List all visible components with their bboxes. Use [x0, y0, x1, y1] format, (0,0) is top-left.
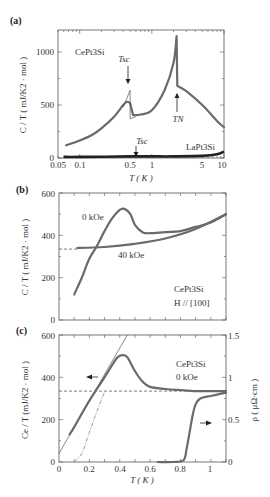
panel-c-ytick: 0	[51, 457, 56, 467]
panel-a-xtick: 10	[218, 160, 228, 170]
panel-b-ylabel: C / T ( mJ/K2 · mol )	[20, 219, 30, 295]
panel-b-field-dir: H // [100]	[174, 298, 210, 308]
series-label-0koe: 0 kOe	[82, 212, 104, 222]
panel-c: (c) 0 200 400 600 0 0.5 1 1.5 0 0.2 0.4 …	[16, 325, 259, 485]
panel-a-xtick: 0.5	[124, 160, 136, 170]
panel-b-ytick: 0	[51, 315, 56, 325]
figure: (a) 0 500 1000 0.05 0.1 0.5 1 5 10 T ( K…	[0, 0, 270, 497]
panel-a-label: (a)	[10, 15, 22, 27]
panel-c-ytick: 400	[42, 373, 56, 383]
panel-a-ylabel: C / T ( mJ/K2 · mol )	[18, 57, 28, 133]
arrow-head-icon	[175, 93, 180, 98]
panel-a-xtick: 0.1	[74, 160, 85, 170]
panel-a: (a) 0 500 1000 0.05 0.1 0.5 1 5 10 T ( K…	[10, 15, 227, 183]
panel-c-xtick: 0.8	[174, 464, 186, 474]
panel-a-ytick-500: 500	[41, 100, 55, 110]
tsc-label-ce: Tsc	[118, 54, 130, 64]
tsc-label-la: Tsc	[136, 136, 148, 146]
panel-c-y2tick: 0.5	[228, 415, 240, 425]
panel-c-xtick: 0.2	[83, 464, 94, 474]
panel-c-ytick: 600	[42, 331, 56, 341]
panel-b-label: (b)	[16, 184, 28, 196]
panel-c-xtick: 0.6	[144, 464, 156, 474]
panel-b-sample-label: CePt3Si	[174, 284, 204, 294]
panel-c-xtick: 1	[208, 464, 213, 474]
panel-c-ylabel: Ce / T (mJ/K2 · mol )	[20, 361, 30, 439]
panel-c-label: (c)	[16, 325, 27, 337]
panel-a-ref-label: LaPt3Si	[186, 142, 216, 152]
panel-c-xlabel: T ( K )	[130, 475, 154, 485]
panel-c-y2tick: 1.5	[228, 331, 240, 341]
panel-b-ytick: 400	[42, 231, 56, 241]
panel-c-sample-label: CePt3Si	[176, 359, 206, 369]
panel-a-xlabel: T ( K )	[129, 173, 153, 183]
panel-c-y2tick: 0	[228, 457, 233, 467]
panel-a-ytick-1000: 1000	[36, 47, 55, 57]
panel-a-sample-label: CePt3Si	[75, 47, 105, 57]
lapt3si-curve	[64, 152, 224, 157]
panel-c-xtick: 0.4	[114, 464, 126, 474]
arrow-head-icon	[126, 79, 131, 84]
panel-a-xtick: 0.05	[50, 160, 66, 170]
panel-a-xtick: 1	[150, 160, 155, 170]
panel-c-ytick: 200	[42, 415, 56, 425]
series-label-40koe: 40 kOe	[118, 250, 144, 260]
tn-label: TN	[172, 114, 184, 124]
panel-b: (b) 0 200 400 600 C / T ( mJ/K2 · mol ) …	[16, 184, 226, 325]
panel-a-xtick: 5	[200, 160, 205, 170]
arrow-right-icon	[206, 421, 212, 426]
panel-c-xtick: 0	[57, 464, 62, 474]
panel-c-y2label: ρ ( μΩ·cm )	[249, 379, 259, 422]
panel-c-y2tick: 1	[228, 373, 233, 383]
resistivity-curve	[158, 393, 226, 463]
arrow-left-icon	[86, 375, 92, 380]
panel-c-field-label: 0 kOe	[176, 372, 198, 382]
panel-b-ytick: 200	[42, 273, 56, 283]
panel-b-ytick: 600	[42, 189, 56, 199]
